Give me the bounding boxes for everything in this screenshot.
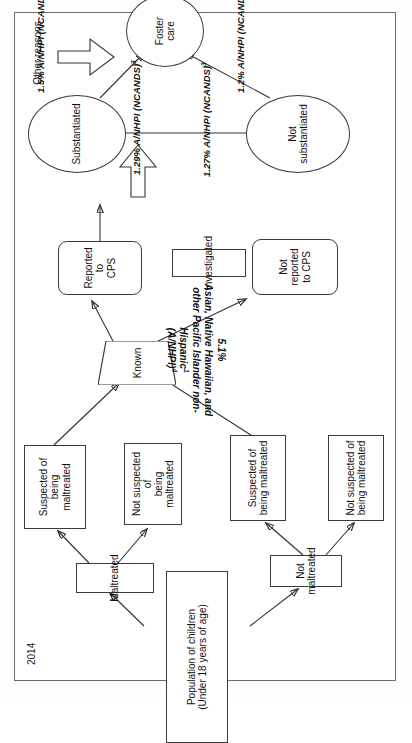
- population-stat-sup4: 4: [171, 368, 178, 372]
- node-not-reported-cps-line1: Not reported: [278, 242, 300, 292]
- population-stat-line4: (A/NHPI): [166, 328, 177, 369]
- node-not-suspected-maltreated-right[interactable]: Not suspected of being maltreated: [328, 435, 384, 521]
- substantiated-source: (NCANDS): [131, 64, 142, 111]
- population-stat-pct: 5.1%: [214, 255, 227, 445]
- annotation-not-substantiated-stat: 1.27% A/NHPI (NCANDS)3: [202, 87, 213, 177]
- foster-notsub-source: (NCANDS): [235, 0, 246, 34]
- node-substantiated-label: Substantiated: [71, 101, 82, 166]
- node-reported-cps-line2: CPS: [106, 244, 117, 292]
- node-not-suspected-maltreated-left[interactable]: Not suspected of being maltreated: [124, 443, 182, 525]
- node-not-suspected-left-line2: being maltreated: [153, 446, 175, 522]
- other-reasons-text: Other reasons: [32, 21, 43, 84]
- node-maltreated-label: Maltreated: [109, 552, 120, 603]
- node-not-reported-cps-line2: to CPS: [301, 242, 312, 292]
- annotation-population-stat: 5.1% Asian, Native Hawaiian, and other P…: [164, 255, 227, 445]
- substantiated-sup: 3: [130, 60, 137, 64]
- node-suspected-maltreated-right[interactable]: Suspected of being maltreated: [230, 435, 286, 521]
- flowchart-canvas: Population of children (Under 18 years o…: [14, 12, 396, 681]
- not-substantiated-group: A/NHPI: [201, 116, 212, 148]
- node-suspected-left-line1: Suspected of being: [38, 448, 60, 526]
- other-reasons-thick-arrow: [58, 39, 114, 75]
- substantiated-pct: 1.29%: [131, 148, 142, 175]
- population-stat-sup3: 1: [183, 369, 190, 373]
- node-not-reported-to-cps[interactable]: Not reported to CPS: [252, 239, 338, 295]
- node-not-substantiated[interactable]: Not substantiated: [246, 95, 350, 173]
- node-maltreated[interactable]: Maltreated: [76, 563, 154, 593]
- not-substantiated-sup: 3: [200, 62, 207, 66]
- node-not-suspected-right-line2: being maltreated: [356, 438, 367, 517]
- node-not-substantiated-line2: substantiated: [298, 102, 309, 166]
- node-reported-cps-line1: Reported to: [83, 244, 105, 292]
- node-known-label: Known: [132, 348, 143, 379]
- node-not-suspected-right-line1: Not suspected of: [345, 438, 356, 517]
- node-population[interactable]: Population of children (Under 18 years o…: [166, 571, 228, 743]
- node-not-suspected-left-line1: Not suspected of: [131, 446, 153, 522]
- annotation-foster-from-not-substantiated: 1.2% A/NHPI (NCANDS)3: [236, 7, 247, 93]
- node-suspected-right-line1: Suspected of: [247, 439, 258, 518]
- not-substantiated-pct: 1.27%: [201, 150, 212, 177]
- node-not-substantiated-line1: Not: [287, 102, 298, 166]
- not-substantiated-source: (NCANDS): [201, 66, 212, 113]
- node-reported-to-cps[interactable]: Reported to CPS: [58, 241, 142, 295]
- annotation-substantiated-stat: 1.29% A/NHPI (NCANDS)3: [132, 89, 143, 175]
- foster-notsub-pct: 1.2%: [235, 71, 246, 93]
- node-suspected-left-line2: maltreated: [61, 448, 72, 526]
- node-not-maltreated-line1: Not: [295, 545, 306, 596]
- node-substantiated[interactable]: Substantiated: [28, 95, 126, 173]
- population-stat-line1: Asian, Native Hawaiian, and: [202, 255, 215, 445]
- node-foster-care-line2: care: [165, 15, 176, 47]
- population-stat-line2: other Pacific Islander non-: [189, 255, 202, 445]
- node-not-maltreated-line2: maltreated: [306, 545, 317, 596]
- year-label: 2014: [26, 643, 37, 665]
- substantiated-group: A/NHPI: [131, 114, 142, 146]
- node-suspected-maltreated-left[interactable]: Suspected of being maltreated: [24, 445, 86, 529]
- node-foster-care-line1: Foster: [154, 15, 165, 47]
- node-population-line1: Population of children: [186, 602, 197, 712]
- node-not-maltreated[interactable]: Not maltreated: [270, 555, 342, 587]
- node-suspected-right-line2: being maltreated: [258, 439, 269, 518]
- foster-notsub-group: A/NHPI: [235, 37, 246, 69]
- node-population-line2: (Under 18 years of age): [197, 602, 208, 712]
- population-stat-line3: Hispanic: [178, 327, 189, 369]
- annotation-other-reasons: Other reasons: [34, 7, 46, 99]
